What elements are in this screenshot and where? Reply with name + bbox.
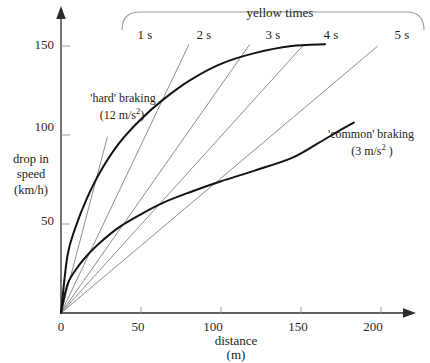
hard-braking-decel-prefix: (12 m/s <box>100 108 136 122</box>
y-tick-label-100: 100 <box>24 120 54 135</box>
hard-braking-label: 'hard' braking <box>76 92 170 105</box>
yellow-time-line-1s <box>61 137 107 313</box>
y-tick-label-50: 50 <box>24 214 54 229</box>
common-braking-decel: (3 m/s2 ) <box>330 145 414 158</box>
yellow-time-lines <box>61 44 378 313</box>
y-axis-title-line1: drop in <box>4 152 58 166</box>
common-braking-decel-prefix: (3 m/s <box>351 144 381 158</box>
yellow-time-line-5s <box>61 46 378 313</box>
hard-braking-decel-suffix: ) <box>140 108 144 122</box>
time-label-2s: 2 s <box>189 28 219 43</box>
hard-braking-curve <box>61 44 325 313</box>
y-axis-arrow-icon <box>56 6 66 19</box>
y-axis-title-line2: speed <box>4 167 58 181</box>
x-axis-unit: (m) <box>216 348 256 363</box>
common-braking-decel-suffix: ) <box>386 144 393 158</box>
y-axis-unit: (km/h) <box>4 183 58 197</box>
time-label-3s: 3 s <box>258 28 288 43</box>
time-label-4s: 4 s <box>316 28 346 43</box>
x-tick-label-50: 50 <box>127 320 149 335</box>
x-axis-ticks <box>141 307 381 313</box>
common-braking-label: 'common' braking <box>316 128 426 141</box>
yellow-time-line-2s <box>61 44 189 313</box>
x-axis-arrow-icon <box>403 308 416 318</box>
yellow-times-bracket-label: yellow times <box>225 6 335 21</box>
braking-curves <box>61 44 354 313</box>
time-label-1s: 1 s <box>130 28 160 43</box>
y-axis-ticks <box>61 46 70 224</box>
y-tick-label-150: 150 <box>24 38 54 53</box>
yellow-time-line-3s <box>61 44 250 313</box>
x-tick-label-200: 200 <box>360 320 386 335</box>
time-label-5s: 5 s <box>387 28 417 43</box>
x-tick-label-150: 150 <box>285 320 311 335</box>
hard-braking-decel: (12 m/s2) <box>80 109 164 122</box>
x-tick-label-0: 0 <box>51 320 71 335</box>
